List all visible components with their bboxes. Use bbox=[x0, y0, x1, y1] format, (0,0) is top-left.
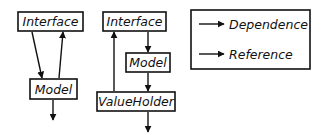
reference-arrow-model-to-interface bbox=[59, 32, 63, 78]
dependence-arrow-interface-to-model bbox=[32, 32, 42, 78]
right-diagram: Interface Model ValueHolder bbox=[97, 12, 175, 132]
right-model-label: Model bbox=[129, 55, 167, 70]
right-interface-label: Interface bbox=[107, 14, 163, 29]
legend-reference-label: Reference bbox=[229, 47, 293, 62]
dependency-diagram: Interface Model Interface Model ValueHol… bbox=[0, 0, 324, 139]
legend-dependence-label: Dependence bbox=[229, 17, 308, 32]
valueholder-label: ValueHolder bbox=[98, 94, 175, 109]
left-interface-label: Interface bbox=[23, 14, 79, 29]
legend: Dependence Reference bbox=[191, 10, 310, 69]
left-model-label: Model bbox=[35, 82, 73, 97]
left-diagram: Interface Model bbox=[18, 12, 83, 120]
